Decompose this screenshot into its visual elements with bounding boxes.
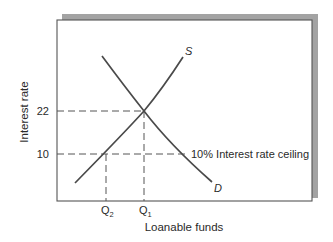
- demand-label: D: [214, 182, 222, 194]
- x-tick-q2: Q2: [101, 204, 114, 219]
- y-tick-10: 10: [37, 148, 49, 160]
- ceiling-annotation: 10% Interest rate ceiling: [191, 148, 309, 160]
- y-axis-title: Interest rate: [18, 81, 30, 142]
- x-axis-title: Loanable funds: [145, 221, 224, 233]
- y-tick-22: 22: [37, 105, 49, 117]
- supply-label: S: [185, 45, 193, 57]
- x-tick-q1: Q1: [139, 204, 152, 219]
- chart: S D 10% Interest rate ceiling 22 10 Q2 Q…: [0, 0, 333, 242]
